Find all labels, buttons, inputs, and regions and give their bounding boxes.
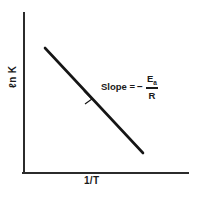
- arrhenius-plot-figure: ℓn K 1/T Slope = − Ea R: [0, 0, 201, 200]
- numerator-subscript: a: [153, 79, 157, 86]
- arrhenius-data-line: [45, 48, 143, 153]
- slope-annotation: Slope = − Ea R: [101, 74, 158, 100]
- y-axis-label: ℓn K: [8, 66, 18, 88]
- fraction-numerator: Ea: [146, 74, 158, 87]
- minus-sign: −: [137, 82, 143, 92]
- fraction-denominator: R: [147, 89, 156, 101]
- x-axis-label: 1/T: [84, 176, 99, 186]
- slope-annotation-text: Slope =: [101, 82, 135, 92]
- activation-energy-fraction: Ea R: [146, 74, 158, 100]
